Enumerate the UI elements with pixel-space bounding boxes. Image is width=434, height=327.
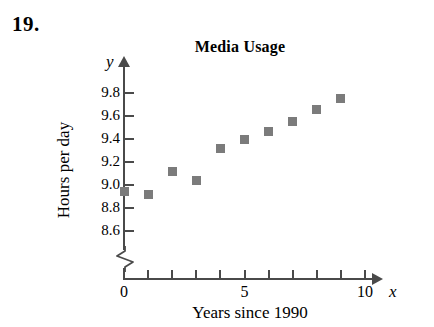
- x-axis-tick: [340, 270, 342, 279]
- x-axis-tick: [147, 270, 149, 279]
- y-axis-tick-label-text: 9.8: [80, 84, 120, 101]
- y-axis-tick-label: 9.4: [74, 130, 120, 146]
- figure-container: 19. Media Usage y x 8.68.89.09.29.49.69.…: [0, 0, 434, 327]
- axis-break-icon: [114, 246, 136, 272]
- data-point-marker: [192, 176, 201, 185]
- y-axis-tick: [125, 161, 134, 163]
- y-axis-tick-label-text: 9.6: [80, 107, 120, 124]
- data-point-marker: [288, 117, 297, 126]
- data-point-marker: [264, 127, 273, 136]
- data-point-marker: [168, 167, 177, 176]
- y-axis-tick-label: 9.8: [74, 84, 120, 100]
- x-axis-tick: [123, 270, 125, 279]
- y-axis-tick: [125, 230, 134, 232]
- y-axis-tick-label: 8.8: [74, 199, 120, 215]
- y-axis-arrow-icon: [118, 56, 130, 67]
- x-axis-tick: [171, 270, 173, 279]
- y-axis-tick-label-text: 9.0: [80, 176, 120, 193]
- data-point-marker: [312, 105, 321, 114]
- y-axis-title: Hours per day: [54, 90, 74, 250]
- y-axis-tick-label: 9.0: [74, 176, 120, 192]
- y-axis-variable-label: y: [106, 52, 114, 72]
- y-axis-tick: [125, 207, 134, 209]
- x-axis-tick: [268, 270, 270, 279]
- y-axis-tick: [125, 138, 134, 140]
- x-axis-tick-label: 5: [230, 283, 260, 301]
- y-axis-tick: [125, 115, 134, 117]
- x-axis-tick: [244, 270, 246, 279]
- y-axis-tick-label: 8.6: [74, 222, 120, 238]
- y-axis-tick-label-text: 9.4: [80, 130, 120, 147]
- data-point-marker: [216, 144, 225, 153]
- y-axis-tick-label-text: 9.2: [80, 153, 120, 170]
- y-axis-tick: [125, 92, 134, 94]
- data-point-marker: [144, 190, 153, 199]
- x-axis-tick: [316, 270, 318, 279]
- x-axis-tick-label: 0: [109, 283, 139, 301]
- x-axis-variable-label: x: [389, 282, 397, 302]
- x-axis-title: Years since 1990: [124, 303, 376, 323]
- data-point-marker: [336, 94, 345, 103]
- y-axis-tick-label-text: 8.8: [80, 199, 120, 216]
- y-axis-tick-label: 9.6: [74, 107, 120, 123]
- x-axis-tick: [219, 270, 221, 279]
- scatter-plot: y x 8.68.89.09.29.49.69.8 0510 Hours per…: [0, 0, 434, 327]
- x-axis-line: [123, 278, 375, 280]
- y-axis-tick-label-text: 8.6: [80, 222, 120, 239]
- x-axis-tick-label: 10: [350, 283, 380, 301]
- x-axis-tick: [195, 270, 197, 279]
- data-point-marker: [120, 187, 129, 196]
- x-axis-tick: [364, 270, 366, 279]
- y-axis-tick-label: 9.2: [74, 153, 120, 169]
- x-axis-tick: [292, 270, 294, 279]
- data-point-marker: [240, 135, 249, 144]
